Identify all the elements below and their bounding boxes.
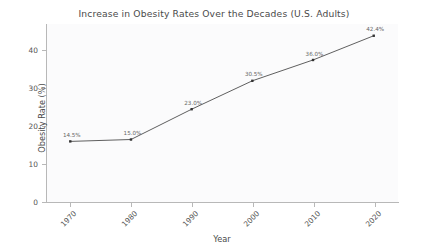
x-tick-mark: [192, 203, 193, 207]
x-tick-mark: [375, 203, 376, 207]
x-axis-label: Year: [46, 234, 398, 244]
x-tick-mark: [70, 203, 71, 207]
point-value-label: 15.0%: [124, 130, 142, 136]
x-axis-spine: [46, 202, 399, 203]
chart-figure: Increase in Obesity Rates Over the Decad…: [0, 0, 428, 250]
point-value-label: 23.0%: [184, 100, 202, 106]
x-tick-mark: [253, 203, 254, 207]
chart-title: Increase in Obesity Rates Over the Decad…: [0, 8, 428, 19]
point-value-label: 30.5%: [245, 71, 263, 77]
x-tick-mark: [131, 203, 132, 207]
y-axis-label: Obesity Rate (%): [37, 29, 47, 207]
point-value-label: 14.5%: [63, 132, 81, 138]
point-value-label: 42.4%: [366, 26, 384, 32]
point-value-label: 36.0%: [306, 51, 324, 57]
plot-area: [46, 24, 398, 202]
x-tick-mark: [314, 203, 315, 207]
